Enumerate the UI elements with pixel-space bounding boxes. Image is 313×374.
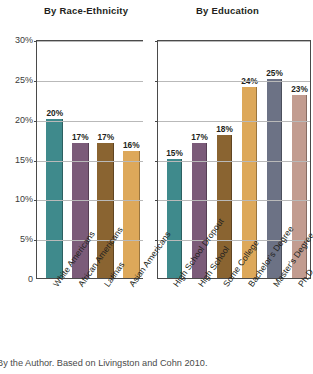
panel-title-education: By Education (196, 5, 259, 16)
figure-caption: By the Author. Based on Livingston and C… (0, 358, 207, 368)
gridline-25 (37, 81, 143, 82)
y-tickmark-30 (155, 41, 158, 42)
y-tick-label-25: 25% (0, 75, 33, 85)
bar-slot: 15% (167, 41, 182, 278)
y-tickmark-30 (34, 41, 37, 42)
y-axis-tick-labels: 30%25%20%15%10%5%0 (0, 0, 33, 374)
chart-education: 15%17%18%24%25%23% (157, 40, 311, 279)
gridline-30 (158, 41, 310, 42)
bar-high-school-dropout[interactable] (167, 159, 182, 279)
y-tickmark-25 (34, 81, 37, 82)
gridline-25 (158, 81, 310, 82)
bar-slot: 16% (123, 41, 140, 278)
y-tick-label-10: 10% (0, 194, 33, 204)
bar-asian-americans[interactable] (123, 151, 140, 278)
bar-value-label: 18% (210, 124, 239, 134)
bar-group-education: 15%17%18%24%25%23% (158, 41, 310, 278)
gridline-15 (158, 161, 310, 162)
bar-white-americans[interactable] (46, 119, 63, 278)
y-tickmark-15 (34, 161, 37, 162)
panel-title-race-ethnicity: By Race-Ethnicity (44, 5, 128, 16)
y-tickmark-10 (155, 200, 158, 201)
y-tickmark-25 (155, 81, 158, 82)
gridline-30 (37, 41, 143, 42)
bar-slot: 18% (217, 41, 232, 278)
gridline-10 (158, 200, 310, 201)
bar-value-label: 16% (116, 140, 147, 150)
y-tick-label-15: 15% (0, 155, 33, 165)
y-tickmark-15 (155, 161, 158, 162)
bar-slot: 20% (46, 41, 63, 278)
gridline-15 (37, 161, 143, 162)
gridline-20 (158, 121, 310, 122)
y-tick-label-0: 0 (0, 274, 33, 284)
bar-value-label: 25% (260, 68, 289, 78)
bar-value-label: 23% (285, 84, 313, 94)
bar-value-label: 15% (160, 148, 189, 158)
gridline-10 (37, 200, 143, 201)
y-tickmark-20 (34, 121, 37, 122)
gridline-20 (37, 121, 143, 122)
y-tick-label-5: 5% (0, 234, 33, 244)
bar-value-label: 20% (39, 108, 70, 118)
y-tickmark-5 (34, 240, 37, 241)
y-tick-label-20: 20% (0, 115, 33, 125)
y-tick-label-30: 30% (0, 35, 33, 45)
y-tickmark-10 (34, 200, 37, 201)
y-tickmark-20 (155, 121, 158, 122)
